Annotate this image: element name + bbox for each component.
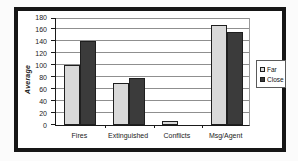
scanned-figure: Average 020406080100120140160180 FiresEx…	[0, 0, 298, 161]
y-tick-40	[51, 100, 56, 101]
chart-frame: Average 020406080100120140160180 FiresEx…	[14, 7, 286, 152]
plot-area	[55, 18, 250, 126]
y-tick-0	[51, 124, 56, 125]
bar-far-msg-agent	[211, 25, 227, 125]
bar-close-fires	[80, 41, 96, 125]
category-label-extinguished: Extinguished	[104, 131, 153, 140]
y-tick-180	[51, 18, 56, 19]
y-tick-label-0: 0	[18, 122, 47, 129]
legend: FarClose	[256, 60, 286, 88]
x-tick-3	[202, 125, 203, 128]
y-axis-tick-labels: 020406080100120140160180	[18, 18, 47, 126]
x-tick-1	[105, 125, 106, 128]
y-tick-label-100: 100	[18, 62, 47, 69]
legend-label-far: Far	[267, 66, 277, 73]
legend-label-close: Close	[267, 76, 284, 83]
y-tick-label-120: 120	[18, 50, 47, 57]
y-tick-20	[51, 112, 56, 113]
y-tick-140	[51, 40, 56, 41]
x-axis-category-labels: FiresExtinguishedConflictsMsg/Agent	[55, 131, 250, 143]
y-tick-label-140: 140	[18, 38, 47, 45]
category-label-msg-agent: Msg/Agent	[201, 131, 250, 140]
y-tick-label-40: 40	[18, 98, 47, 105]
y-tick-label-60: 60	[18, 86, 47, 93]
legend-item-close: Close	[260, 74, 283, 84]
legend-item-far: Far	[260, 64, 283, 74]
legend-swatch-far	[260, 67, 265, 72]
bar-far-conflicts	[162, 121, 178, 125]
y-tick-label-20: 20	[18, 110, 47, 117]
y-tick-label-160: 160	[18, 26, 47, 33]
y-tick-80	[51, 76, 56, 77]
gridline-180	[56, 18, 249, 19]
legend-swatch-close	[260, 77, 265, 82]
bar-close-extinguished	[129, 78, 145, 125]
category-label-fires: Fires	[55, 131, 104, 140]
y-tick-label-80: 80	[18, 74, 47, 81]
y-tick-label-180: 180	[18, 14, 47, 21]
y-tick-60	[51, 88, 56, 89]
bar-close-msg-agent	[227, 32, 243, 125]
bar-far-extinguished	[113, 83, 129, 125]
bar-far-fires	[64, 65, 80, 125]
category-label-conflicts: Conflicts	[153, 131, 202, 140]
y-tick-100	[51, 64, 56, 65]
y-tick-160	[51, 28, 56, 29]
x-tick-2	[154, 125, 155, 128]
y-tick-120	[51, 52, 56, 53]
